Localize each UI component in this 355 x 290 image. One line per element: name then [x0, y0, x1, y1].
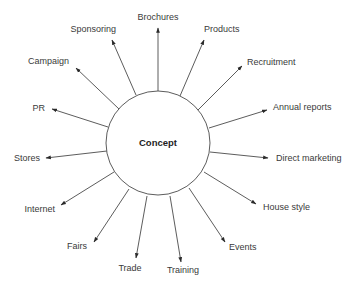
label-stores: Stores	[14, 153, 41, 163]
arrow-direct-marketing	[210, 152, 268, 158]
arrow-products	[180, 40, 204, 96]
label-annual-reports: Annual reports	[273, 102, 332, 112]
concept-diagram: Concept BrochuresProductsRecruitmentAnnu…	[0, 0, 355, 290]
arrow-stores	[46, 151, 107, 158]
label-recruitment: Recruitment	[247, 57, 296, 67]
label-fairs: Fairs	[67, 241, 87, 251]
arrow-fairs	[94, 189, 129, 242]
label-brochures: Brochures	[137, 12, 179, 22]
label-campaign: Campaign	[28, 56, 69, 66]
arrow-house-style	[204, 172, 256, 204]
arrow-pr	[52, 109, 108, 127]
label-trade: Trade	[118, 263, 141, 273]
label-house-style: House style	[263, 202, 310, 212]
arrow-events	[189, 188, 225, 242]
arrow-trade	[136, 196, 147, 258]
arrow-internet	[61, 172, 114, 205]
arrow-campaign	[76, 68, 119, 109]
arrow-sponsoring	[112, 40, 136, 95]
arrow-training	[170, 196, 181, 262]
label-products: Products	[204, 24, 240, 34]
label-pr: PR	[32, 103, 45, 113]
arrow-recruitment	[198, 66, 242, 110]
label-internet: Internet	[24, 204, 55, 214]
arrow-annual-reports	[209, 110, 267, 128]
label-events: Events	[229, 242, 257, 252]
label-direct-marketing: Direct marketing	[276, 153, 342, 163]
label-sponsoring: Sponsoring	[70, 24, 116, 34]
label-training: Training	[167, 265, 199, 275]
concept-label: Concept	[139, 137, 178, 148]
